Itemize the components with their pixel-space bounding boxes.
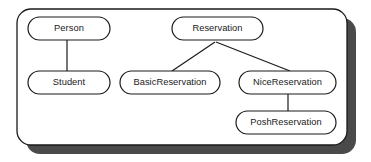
- node-person[interactable]: Person: [28, 17, 110, 40]
- node-posh-reservation[interactable]: PoshReservation: [236, 111, 336, 134]
- node-label-reservation: Reservation: [192, 23, 242, 33]
- node-label-basic-reservation: BasicReservation: [133, 77, 206, 87]
- node-student[interactable]: Student: [28, 71, 110, 94]
- node-reservation[interactable]: Reservation: [172, 17, 263, 40]
- node-label-posh-reservation: PoshReservation: [250, 117, 322, 127]
- node-label-nice-reservation: NiceReservation: [253, 77, 322, 87]
- node-basic-reservation[interactable]: BasicReservation: [120, 71, 220, 94]
- node-label-student: Student: [53, 77, 86, 87]
- diagram-canvas: PersonStudentReservationBasicReservation…: [0, 0, 371, 162]
- node-label-person: Person: [54, 23, 84, 33]
- class-hierarchy-diagram: PersonStudentReservationBasicReservation…: [0, 0, 371, 162]
- node-nice-reservation[interactable]: NiceReservation: [239, 71, 336, 94]
